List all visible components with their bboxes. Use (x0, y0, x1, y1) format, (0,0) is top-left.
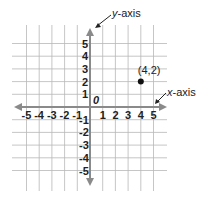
y-tick-label: -1 (79, 114, 89, 126)
x-axis-label: x-axis (166, 86, 196, 98)
x-tick-label: 1 (100, 109, 106, 121)
axes (14, 28, 167, 186)
x-tick-label: 3 (125, 109, 131, 121)
y-tick-label: 3 (82, 63, 88, 75)
y-tick-label: -4 (79, 152, 90, 164)
y-tick-label: 5 (82, 38, 88, 50)
x-tick-label: -4 (34, 109, 45, 121)
x-tick-label: 2 (112, 109, 118, 121)
x-tick-label: 5 (151, 109, 157, 121)
coordinate-plane: -5-4-3-2-112345 54321-1-2-3-4-5 0 (4,2) … (0, 0, 209, 197)
x-axis-callout: x-axis (155, 86, 196, 104)
y-axis-up-arrow-icon (86, 28, 94, 36)
x-axis-right-arrow-icon (159, 103, 167, 111)
y-tick-label: -3 (79, 139, 89, 151)
point-label: (4,2) (138, 64, 161, 76)
y-tick-label: -5 (79, 165, 89, 177)
x-tick-label: -2 (60, 109, 70, 121)
y-axis-label: y-axis (111, 7, 141, 19)
y-tick-label: -2 (79, 126, 89, 138)
origin-label: 0 (93, 94, 100, 106)
x-tick-label: 4 (138, 109, 145, 121)
y-tick-label: 1 (82, 88, 88, 100)
y-axis-pointer (97, 15, 111, 26)
y-tick-label: 4 (82, 50, 89, 62)
y-axis-down-arrow-icon (86, 178, 94, 186)
x-tick-label: -5 (22, 109, 32, 121)
point-marker (138, 79, 144, 85)
y-axis-callout: y-axis (95, 7, 141, 28)
x-tick-label: -3 (47, 109, 57, 121)
y-tick-label: 2 (82, 76, 88, 88)
